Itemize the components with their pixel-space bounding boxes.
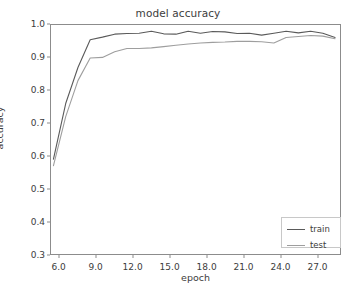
y-tick-label: 0.9 [31, 52, 45, 62]
series-line-test [53, 35, 335, 165]
series-line-train [53, 31, 335, 159]
x-tick-label: 15.0 [160, 262, 180, 272]
x-tick-label: 9.0 [88, 262, 102, 272]
legend-label: test [310, 240, 326, 251]
legend-swatch-train [287, 229, 305, 231]
x-tick-mark [206, 255, 207, 258]
y-tick-label: 0.5 [31, 184, 45, 194]
x-axis-label: epoch [50, 272, 341, 283]
x-tick-label: 18.0 [197, 262, 217, 272]
y-tick-label: 0.7 [31, 118, 45, 128]
x-tick-mark [243, 255, 244, 258]
y-tick-label: 0.8 [31, 85, 45, 95]
legend-item-test[interactable]: test [286, 240, 336, 251]
chart-legend: traintest [281, 217, 341, 248]
y-axis-label: accuracy [0, 107, 5, 150]
legend-label: train [310, 224, 330, 235]
y-tick-label: 1.0 [31, 19, 45, 29]
x-tick-mark [169, 255, 170, 258]
legend-item-train[interactable]: train [286, 224, 336, 235]
x-tick-mark [317, 255, 318, 258]
y-axis: 0.30.40.50.60.70.80.91.0 [0, 24, 50, 255]
legend-swatch-test [287, 245, 305, 247]
x-tick-mark [58, 255, 59, 258]
x-tick-label: 12.0 [123, 262, 143, 272]
y-tick-label: 0.6 [31, 151, 45, 161]
x-tick-mark [280, 255, 281, 258]
x-tick-mark [132, 255, 133, 258]
matplotlib-figure: model accuracy 0.30.40.50.60.70.80.91.0 … [0, 0, 356, 297]
x-tick-label: 6.0 [51, 262, 65, 272]
x-tick-label: 24.0 [271, 262, 291, 272]
x-tick-mark [95, 255, 96, 258]
y-tick-label: 0.4 [31, 217, 45, 227]
y-tick-label: 0.3 [31, 250, 45, 260]
x-tick-label: 27.0 [308, 262, 328, 272]
x-tick-label: 21.0 [234, 262, 254, 272]
chart-title: model accuracy [0, 7, 356, 19]
